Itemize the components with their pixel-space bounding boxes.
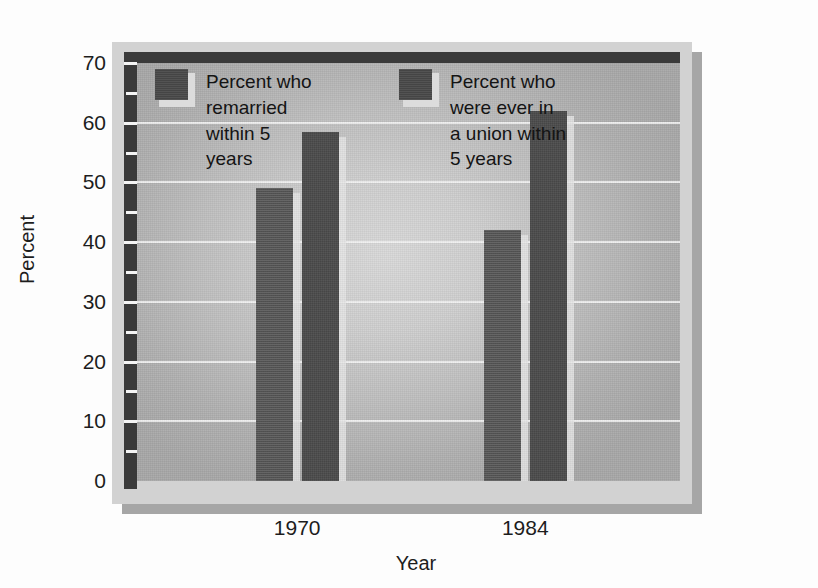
bar-highlight xyxy=(567,116,574,481)
y-axis-minor-tick xyxy=(126,390,137,393)
y-axis-tick-labels: 706050403020100 xyxy=(44,0,106,588)
y-axis-major-tick xyxy=(124,301,137,304)
y-axis-minor-tick xyxy=(126,92,137,95)
gridline xyxy=(137,181,680,183)
bar-highlight xyxy=(521,235,528,481)
y-axis-tick-label: 0 xyxy=(50,470,106,491)
y-axis-minor-tick xyxy=(126,211,137,214)
bar-highlight xyxy=(293,193,300,481)
plot-area xyxy=(137,63,680,481)
x-axis-title-text: Year xyxy=(396,552,436,575)
y-axis-tick-label: 70 xyxy=(50,52,106,73)
bar[interactable] xyxy=(484,230,521,481)
gridline xyxy=(137,241,680,243)
gridline xyxy=(137,361,680,363)
y-axis-major-tick xyxy=(124,420,137,423)
y-axis-tick-label: 10 xyxy=(50,410,106,431)
bar-highlight xyxy=(339,137,346,481)
y-axis-major-tick xyxy=(124,62,137,65)
plot-border-top xyxy=(124,52,680,63)
x-axis-tick-label: 1984 xyxy=(455,516,595,540)
y-axis-major-tick xyxy=(124,361,137,364)
bar[interactable] xyxy=(530,111,567,481)
y-axis-minor-tick xyxy=(126,271,137,274)
bar[interactable] xyxy=(302,132,339,481)
x-axis-tick-label: 1970 xyxy=(227,516,367,540)
y-axis-tick-label: 30 xyxy=(50,291,106,312)
y-axis-tick-label: 50 xyxy=(50,171,106,192)
y-axis-tick-label: 60 xyxy=(50,112,106,133)
gridline xyxy=(137,420,680,422)
gridline xyxy=(137,301,680,303)
y-axis-major-tick xyxy=(124,122,137,125)
y-axis-minor-tick xyxy=(126,331,137,334)
y-axis-major-tick xyxy=(124,181,137,184)
y-axis-tick-label: 20 xyxy=(50,351,106,372)
x-axis-title: Year xyxy=(0,552,818,575)
y-axis-title: Percent xyxy=(16,190,39,310)
y-axis-minor-tick xyxy=(126,450,137,453)
bar[interactable] xyxy=(256,188,293,481)
y-axis-tick-label: 40 xyxy=(50,231,106,252)
gridline xyxy=(137,122,680,124)
y-axis-minor-tick xyxy=(126,152,137,155)
chart-figure: 706050403020100 Percent Percent who rema… xyxy=(0,0,818,588)
y-axis-major-tick xyxy=(124,241,137,244)
